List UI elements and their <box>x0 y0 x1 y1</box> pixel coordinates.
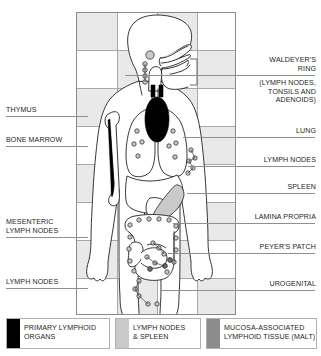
legend-nodes-label: LYMPH NODES & SPLEEN <box>129 319 200 348</box>
label-lamina-propria: LAMINA PROPRIA <box>255 213 316 222</box>
leader-lymph-nodes-right <box>188 166 315 167</box>
legend-swatch-primary <box>7 319 20 348</box>
label-urogenital: UROGENITAL <box>269 280 316 289</box>
label-waldeyers-ring: WALDEYER'S RING <box>269 56 316 73</box>
leader-lymph-nodes-left <box>6 288 88 289</box>
legend-lymph-nodes-and-spleen: LYMPH NODES & SPLEEN <box>115 318 201 349</box>
body-diagram-panel <box>76 12 236 315</box>
thymus-organ <box>145 97 169 142</box>
leader-mesenteric <box>6 237 88 238</box>
label-thymus: THYMUS <box>6 106 37 115</box>
legend-malt-label: MUCOSA-ASSOCIATED LYMPHOID TISSUE (MALT) <box>220 319 316 348</box>
label-peyers-patch: PEYER'S PATCH <box>260 243 316 252</box>
label-bone-marrow: BONE MARROW <box>6 136 62 145</box>
waldeyers-ring-bracket <box>189 58 203 86</box>
leader-peyer <box>168 253 315 254</box>
leader-spleen <box>187 193 315 194</box>
legend: PRIMARY LYMPHOID ORGANS LYMPH NODES & SP… <box>0 318 321 352</box>
label-lymph-nodes-right: LYMPH NODES <box>264 156 316 165</box>
legend-malt: MUCOSA-ASSOCIATED LYMPHOID TISSUE (MALT) <box>206 318 317 349</box>
label-spleen: SPLEEN <box>287 183 316 192</box>
label-lung: LUNG <box>296 127 316 136</box>
leader-waldeyer <box>125 75 315 76</box>
leader-bone-marrow <box>6 146 88 147</box>
leader-lamina <box>173 223 315 224</box>
human-body-illustration <box>77 13 236 315</box>
legend-swatch-malt <box>207 319 220 348</box>
adenoid-node <box>146 51 154 59</box>
leader-lung <box>183 137 315 138</box>
leader-thymus <box>6 116 88 117</box>
legend-primary-lymphoid-organs: PRIMARY LYMPHOID ORGANS <box>6 318 110 349</box>
label-mesenteric-lymph-nodes: MESENTERIC LYMPH NODES <box>6 218 58 235</box>
label-waldeyers-ring-detail: (LYMPH NODES, TONSILS AND ADENOIDS) <box>259 79 316 105</box>
leader-urogenital <box>160 290 315 291</box>
lymphatic-system-diagram: THYMUS BONE MARROW MESENTERIC LYMPH NODE… <box>0 0 321 356</box>
legend-primary-label: PRIMARY LYMPHOID ORGANS <box>20 319 109 348</box>
label-lymph-nodes-left: LYMPH NODES <box>6 278 58 287</box>
legend-swatch-nodes <box>116 319 129 348</box>
